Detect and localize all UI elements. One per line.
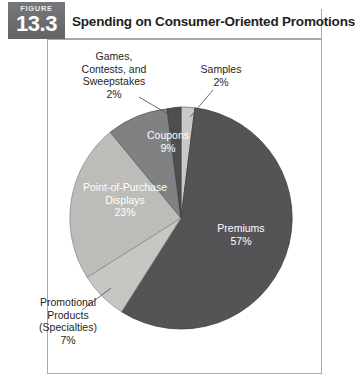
pie-value-coupons: 9% bbox=[131, 142, 205, 155]
pie-value-pop: 23% bbox=[66, 206, 184, 219]
pie-label-games-line2: Contests, and bbox=[62, 63, 166, 76]
figure-badge: FIGURE 13.3 bbox=[8, 2, 65, 39]
pie-label-premiums: Premiums 57% bbox=[198, 222, 284, 247]
figure-badge-number: 13.3 bbox=[8, 11, 65, 37]
pie-label-point-of-purchase-displays: Point-of-Purchase Displays 23% bbox=[66, 181, 184, 219]
pie-label-promotional-products: Promotional Products (Specialties) 7% bbox=[12, 296, 124, 346]
pie-label-pop-line1: Point-of-Purchase bbox=[66, 181, 184, 194]
title-divider bbox=[47, 38, 322, 40]
pie-value-promo: 7% bbox=[12, 334, 124, 347]
pie-value-samples: 2% bbox=[186, 76, 256, 89]
pie-label-promo-line3: (Specialties) bbox=[12, 321, 124, 334]
pie-label-coupons: Coupons 9% bbox=[131, 129, 205, 154]
pie-label-games-line3: Sweepstakes bbox=[62, 75, 166, 88]
figure-title: Spending on Consumer-Oriented Promotions bbox=[72, 14, 355, 29]
pie-label-promo-line1: Promotional bbox=[12, 296, 124, 309]
pie-label-coupons-text: Coupons bbox=[131, 129, 205, 142]
pie-label-games-contests-sweepstakes: Games, Contests, and Sweepstakes 2% bbox=[62, 50, 166, 100]
pie-label-promo-line2: Products bbox=[12, 309, 124, 322]
pie-label-samples-text: Samples bbox=[186, 63, 256, 76]
pie-label-games-line1: Games, bbox=[62, 50, 166, 63]
pie-label-pop-line2: Displays bbox=[66, 194, 184, 207]
pie-value-games: 2% bbox=[62, 88, 166, 101]
pie-value-premiums: 57% bbox=[198, 235, 284, 248]
pie-label-samples: Samples 2% bbox=[186, 63, 256, 88]
pie-label-premiums-text: Premiums bbox=[198, 222, 284, 235]
